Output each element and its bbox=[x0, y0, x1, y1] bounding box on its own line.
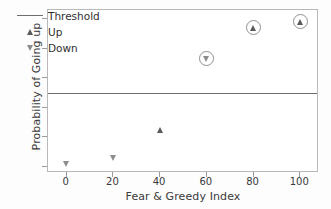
legend-item[interactable]: Threshold bbox=[14, 8, 100, 24]
x-tick-label: 100 bbox=[279, 176, 319, 187]
x-tick-label: 0 bbox=[46, 176, 86, 187]
x-tick-mark bbox=[159, 172, 160, 177]
threshold-line-icon bbox=[17, 15, 43, 16]
legend-item[interactable]: Down bbox=[14, 40, 100, 56]
legend-item[interactable]: Up bbox=[14, 24, 100, 40]
x-tick-label: 40 bbox=[139, 176, 179, 187]
x-tick-mark bbox=[66, 172, 67, 177]
legend-label: Threshold bbox=[48, 10, 100, 22]
chart-figure: Probability of Going up 0.00.20.40.60.81… bbox=[0, 0, 331, 209]
x-tick-label: 60 bbox=[186, 176, 226, 187]
triangle-down-marker-icon bbox=[27, 45, 33, 51]
triangle-up-marker-icon bbox=[27, 29, 33, 35]
x-tick-mark bbox=[299, 172, 300, 177]
legend-key bbox=[14, 41, 48, 55]
x-tick-mark bbox=[206, 172, 207, 177]
legend-key bbox=[14, 25, 48, 39]
chart-legend: ThresholdUpDown bbox=[10, 6, 104, 58]
legend-key bbox=[14, 9, 48, 23]
x-tick-mark bbox=[253, 172, 254, 177]
x-tick-label: 20 bbox=[92, 176, 132, 187]
legend-label: Down bbox=[48, 42, 78, 54]
x-tick-mark bbox=[112, 172, 113, 177]
x-axis-label: Fear & Greedy Index bbox=[47, 190, 319, 203]
legend-label: Up bbox=[48, 26, 62, 38]
x-tick-label: 80 bbox=[233, 176, 273, 187]
